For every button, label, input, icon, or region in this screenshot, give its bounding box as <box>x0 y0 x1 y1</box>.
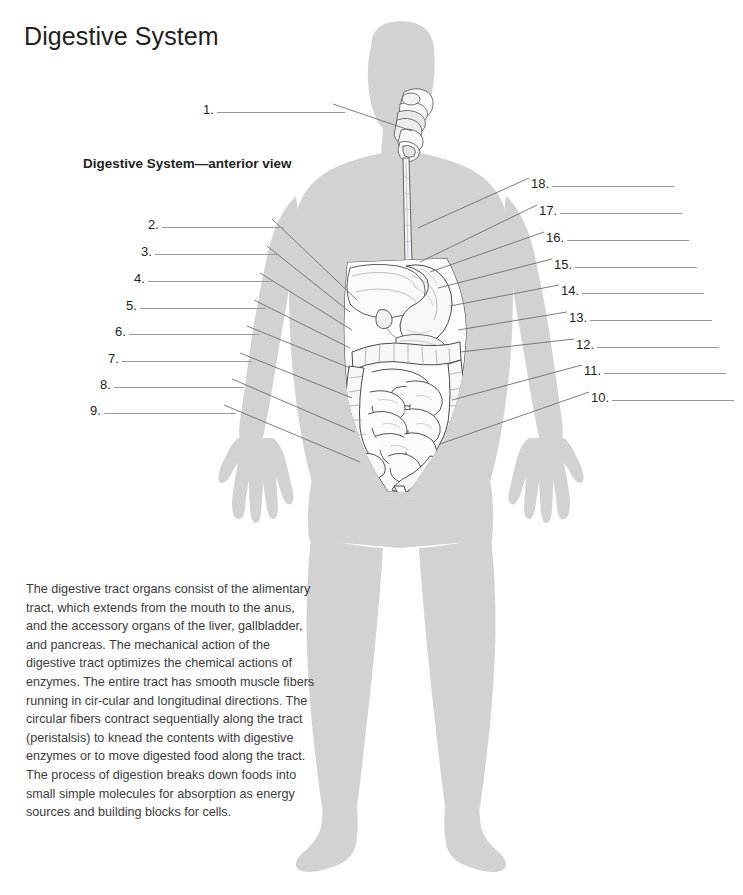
answer-label-3[interactable]: 3. <box>141 245 279 258</box>
answer-label-6[interactable]: 6. <box>115 325 259 338</box>
label-number: 8. <box>100 378 111 391</box>
label-number: 2. <box>148 218 159 231</box>
label-number: 14. <box>561 284 579 297</box>
answer-label-15[interactable]: 15. <box>554 258 697 271</box>
answer-blank-line[interactable] <box>604 373 726 374</box>
answer-label-8[interactable]: 8. <box>100 378 244 391</box>
label-number: 16. <box>546 231 564 244</box>
answer-blank-line[interactable] <box>597 347 719 348</box>
label-number: 1. <box>203 103 214 116</box>
answer-blank-line[interactable] <box>217 112 345 113</box>
answer-blank-line[interactable] <box>129 334 259 335</box>
answer-label-9[interactable]: 9. <box>90 404 236 417</box>
answer-label-13[interactable]: 13. <box>569 311 712 324</box>
worksheet-page: Digestive System Digestive System—anteri… <box>0 0 743 895</box>
answer-blank-line[interactable] <box>140 308 266 309</box>
answer-blank-line[interactable] <box>162 227 284 228</box>
answer-blank-line[interactable] <box>104 413 236 414</box>
answer-label-17[interactable]: 17. <box>539 204 682 217</box>
answer-label-4[interactable]: 4. <box>134 272 272 285</box>
answer-label-2[interactable]: 2. <box>148 218 284 231</box>
label-number: 17. <box>539 204 557 217</box>
answer-blank-line[interactable] <box>582 293 704 294</box>
label-number: 4. <box>134 272 145 285</box>
answer-label-18[interactable]: 18. <box>531 177 674 190</box>
answer-label-5[interactable]: 5. <box>126 299 266 312</box>
answer-blank-line[interactable] <box>114 387 244 388</box>
label-number: 7. <box>108 352 119 365</box>
label-number: 5. <box>126 299 137 312</box>
answer-blank-line[interactable] <box>590 320 712 321</box>
answer-blank-line[interactable] <box>155 254 279 255</box>
answer-label-7[interactable]: 7. <box>108 352 252 365</box>
answer-label-10[interactable]: 10. <box>591 391 734 404</box>
label-number: 6. <box>115 325 126 338</box>
answer-blank-line[interactable] <box>552 186 674 187</box>
answer-label-12[interactable]: 12. <box>576 338 719 351</box>
label-number: 3. <box>141 245 152 258</box>
label-number: 11. <box>584 364 601 377</box>
answer-label-14[interactable]: 14. <box>561 284 704 297</box>
answer-label-1[interactable]: 1. <box>203 103 345 116</box>
label-number: 13. <box>569 311 587 324</box>
label-number: 18. <box>531 177 549 190</box>
answer-blank-line[interactable] <box>122 361 252 362</box>
label-number: 10. <box>591 391 609 404</box>
answer-blank-line[interactable] <box>148 281 272 282</box>
label-number: 15. <box>554 258 572 271</box>
answer-blank-line[interactable] <box>612 400 734 401</box>
answer-blank-line[interactable] <box>575 267 697 268</box>
label-number: 12. <box>576 338 594 351</box>
label-number: 9. <box>90 404 101 417</box>
answer-blank-line[interactable] <box>567 240 689 241</box>
answer-label-11[interactable]: 11. <box>584 364 726 377</box>
answer-label-16[interactable]: 16. <box>546 231 689 244</box>
description-paragraph: The digestive tract organs consist of th… <box>26 580 318 822</box>
answer-blank-line[interactable] <box>560 213 682 214</box>
